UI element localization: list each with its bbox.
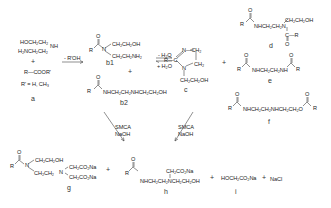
- compound-label-e: e: [268, 77, 272, 84]
- plus-sign: +: [262, 174, 266, 181]
- carbonyl-o: O: [235, 91, 239, 97]
- ring-ch2: CH₂: [194, 61, 204, 67]
- amide-chain: NHCH₂CH₂NHCH₂CH₂OH: [103, 89, 167, 95]
- compound-label-b1: b1: [106, 59, 114, 66]
- carbonyl-o: O: [17, 149, 21, 155]
- left-reagent-naoh: NaOH: [115, 131, 130, 137]
- diamide-chain: NHCH₂CH₂NH: [252, 67, 288, 73]
- plus-sign: +: [128, 68, 132, 75]
- r-group: R: [237, 66, 241, 72]
- right-reagent-naoh: NaOH: [178, 131, 193, 137]
- compound-label-h: h: [164, 188, 168, 195]
- plus-sign: +: [222, 59, 226, 66]
- amine-fragment-1: HOCH₂CH₂: [20, 39, 48, 45]
- amide-n: N: [102, 46, 106, 52]
- carbonyl-o: O: [244, 52, 248, 58]
- step1-condition: - R'OH: [64, 55, 80, 61]
- hydroxyethyl-branch: CH₂CH₂OH: [285, 17, 313, 23]
- carbonyl-o: O: [248, 7, 252, 13]
- carbonyl-o: O: [96, 74, 100, 80]
- r-group: R: [87, 88, 91, 94]
- sodium-chloride: NaCl: [270, 176, 282, 182]
- compound-label-f: f: [268, 118, 270, 125]
- carbonyl-o: O: [96, 33, 100, 39]
- ring-n-ch2: N—CH₂: [182, 47, 201, 53]
- carboxymethyl-branch: CH₂CO₂Na: [166, 168, 193, 174]
- compound-label-b2: b2: [120, 99, 128, 106]
- plus-sign: +: [106, 166, 110, 173]
- r-group: R: [125, 170, 129, 176]
- r-group-2: R: [313, 105, 317, 111]
- hydration-condition: + H₂O: [157, 63, 172, 69]
- compound-label-c: c: [184, 86, 188, 93]
- carboxymethyl-2: CH₂CO₂Na: [69, 174, 96, 180]
- amine-nh: NH: [50, 43, 58, 49]
- carbonyl-o: O: [131, 156, 135, 162]
- acyl-group: C—R: [285, 32, 298, 38]
- amine-fragment-2: H₂NCH₂CH₂: [18, 48, 48, 54]
- hydroxyethyl-chain: CH₂CH₂OH: [180, 77, 208, 83]
- sodium-glycolate: HOCH₂CO₂Na: [221, 175, 256, 181]
- hydroxyethyl-branch: CH₂CH₂OH: [112, 41, 140, 47]
- r-group: R: [10, 163, 14, 169]
- right-reagent-smca: SMCA: [178, 124, 194, 130]
- aminoethyl-branch: CH₂CH₂NH₂: [112, 53, 142, 59]
- amide-n: N: [25, 162, 29, 168]
- compound-label-a: a: [31, 95, 35, 102]
- r-group-2: R: [296, 66, 300, 72]
- rprime-definition: R' = H, CH₃: [21, 81, 49, 87]
- ring-n: N: [182, 65, 186, 71]
- amide-ester-chain: NHCH₂CH₂NHCH₂CH₂O: [243, 106, 303, 112]
- r-carbon: R—C: [164, 57, 177, 63]
- carboxymethyl-1: CH₂CO₂Na: [69, 164, 96, 170]
- carbonyl-o-2: O: [305, 91, 309, 97]
- ethylene-branch: CH₂CH₂: [34, 170, 54, 176]
- compound-label-g: g: [67, 184, 71, 191]
- plus-sign: +: [31, 58, 35, 65]
- r-group: R: [89, 47, 93, 53]
- r-group: R: [240, 21, 244, 27]
- plus-sign: +: [210, 174, 214, 181]
- compound-label-d: d: [269, 42, 273, 49]
- carbonyl-o-2: O: [289, 52, 293, 58]
- tertiary-n: N: [59, 169, 63, 175]
- amide-chain: NHCH₂CH₂N: [254, 23, 286, 29]
- r-group: R: [228, 105, 232, 111]
- hydroxyethyl-branch: CH₂CH₂OH: [35, 157, 63, 163]
- compound-label-i: i: [235, 188, 237, 195]
- acyl-o: O: [285, 41, 289, 47]
- ester-formula: R—COOR': [24, 69, 51, 75]
- left-reagent-smca: SMCA: [115, 124, 131, 130]
- amide-amine-chain: NHCH₂CH₂NCH₂CH₂OH: [140, 178, 200, 184]
